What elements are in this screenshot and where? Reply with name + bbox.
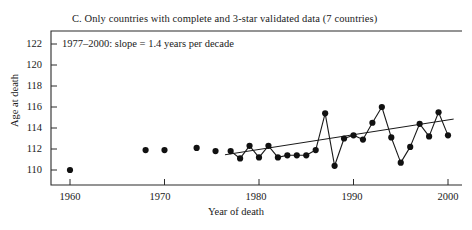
data-point-0-3 (194, 145, 200, 151)
series-connector-lines (231, 107, 448, 166)
data-point-0-2 (161, 147, 167, 153)
y-tick-marks (51, 44, 57, 170)
data-point-1-17 (388, 134, 394, 140)
data-point-1-18 (398, 160, 404, 166)
data-point-1-6 (284, 152, 290, 158)
data-point-1-7 (294, 152, 300, 158)
data-point-1-12 (341, 135, 347, 141)
data-point-1-21 (426, 133, 432, 139)
plot-area (0, 0, 472, 230)
data-point-1-2 (246, 143, 252, 149)
data-point-1-5 (275, 154, 281, 160)
data-point-1-19 (407, 144, 413, 150)
data-point-1-10 (322, 110, 328, 116)
data-point-1-0 (228, 148, 234, 154)
data-point-1-8 (303, 152, 309, 158)
data-point-1-15 (369, 120, 375, 126)
data-point-1-14 (360, 136, 366, 142)
data-point-1-22 (435, 109, 441, 115)
data-point-0-4 (212, 148, 218, 154)
data-point-1-13 (350, 132, 356, 138)
data-point-1-20 (417, 121, 423, 127)
data-point-1-23 (445, 132, 451, 138)
data-point-0-1 (143, 147, 149, 153)
series-1-polyline (231, 107, 448, 166)
data-point-1-1 (237, 155, 243, 161)
series-data-points (67, 104, 451, 173)
figure-panel-c: C. Only countries with complete and 3-st… (0, 0, 472, 230)
data-point-1-11 (332, 163, 338, 169)
data-point-1-3 (256, 154, 262, 160)
data-point-1-9 (313, 147, 319, 153)
data-point-0-0 (67, 167, 73, 173)
data-point-1-4 (265, 143, 271, 149)
x-tick-marks (70, 179, 448, 185)
data-point-1-16 (379, 104, 385, 110)
